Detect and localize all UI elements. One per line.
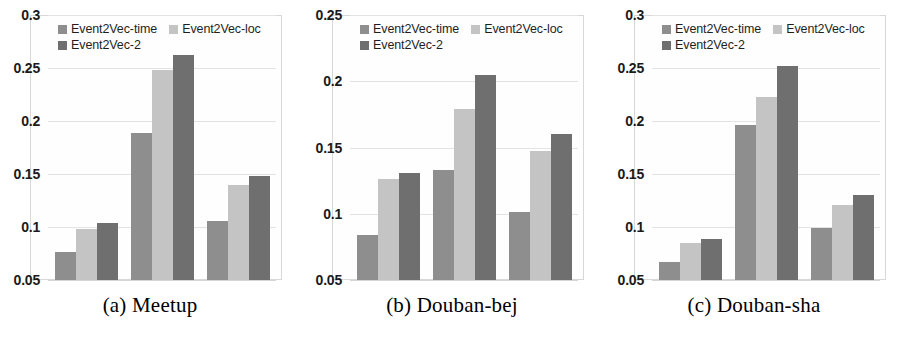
y-tick-label: 0.05: [316, 272, 342, 288]
y-tick-label: 0.3: [625, 7, 644, 23]
plot-area-a: [48, 15, 276, 280]
bars-layer: [652, 15, 880, 280]
bar-group: [735, 15, 798, 280]
bar[interactable]: [701, 239, 722, 280]
legend-swatch-icon: [58, 41, 67, 50]
bar[interactable]: [832, 205, 853, 280]
legend-swatch-icon: [773, 25, 782, 34]
y-tick-label: 0.2: [21, 113, 40, 129]
legend-label: Event2Vec-loc: [484, 22, 563, 36]
y-axis-a: 0.30.250.20.150.10.05: [0, 15, 44, 280]
legend-item[interactable]: Event2Vec-loc: [773, 22, 865, 36]
legend-label: Event2Vec-2: [675, 38, 745, 52]
y-tick-label: 0.25: [14, 60, 40, 76]
legend-label: Event2Vec-time: [71, 22, 157, 36]
legend-a: Event2Vec-timeEvent2Vec-locEvent2Vec-2: [58, 22, 290, 52]
bar[interactable]: [756, 97, 777, 280]
panel-caption-c: (c) Douban-sha: [604, 293, 904, 318]
y-tick-label: 0.1: [21, 219, 40, 235]
y-tick-label: 0.1: [323, 206, 342, 222]
bar[interactable]: [811, 228, 832, 280]
legend-item[interactable]: Event2Vec-2: [662, 38, 745, 52]
legend-swatch-icon: [360, 25, 369, 34]
y-tick-label: 0.1: [625, 219, 644, 235]
bar-group: [55, 15, 118, 280]
bar[interactable]: [207, 221, 228, 280]
legend-item[interactable]: Event2Vec-time: [58, 22, 157, 36]
y-axis-b: 0.250.20.150.10.05: [302, 15, 346, 280]
bar[interactable]: [853, 195, 874, 280]
bar[interactable]: [378, 179, 399, 280]
bar[interactable]: [76, 229, 97, 280]
bar[interactable]: [454, 109, 475, 280]
panel-caption-a: (a) Meetup: [0, 293, 300, 318]
legend-item[interactable]: Event2Vec-loc: [471, 22, 563, 36]
bar[interactable]: [55, 252, 76, 280]
bar[interactable]: [173, 55, 194, 280]
legend-swatch-icon: [169, 25, 178, 34]
bar[interactable]: [735, 125, 756, 280]
legend-swatch-icon: [662, 41, 671, 50]
y-tick-label: 0.15: [618, 166, 644, 182]
legend-item[interactable]: Event2Vec-loc: [169, 22, 261, 36]
bar-group: [659, 15, 722, 280]
bar-group: [131, 15, 194, 280]
legend-item[interactable]: Event2Vec-2: [360, 38, 443, 52]
legend-label: Event2Vec-2: [373, 38, 443, 52]
bar-group: [811, 15, 874, 280]
gridline: [48, 280, 276, 281]
bar[interactable]: [551, 134, 572, 280]
bar-group: [509, 15, 572, 280]
legend-label: Event2Vec-time: [373, 22, 459, 36]
legend-label: Event2Vec-2: [71, 38, 141, 52]
y-tick-label: 0.15: [14, 166, 40, 182]
y-axis-c: 0.30.250.20.150.10.05: [604, 15, 648, 280]
chart-panel-b: 0.250.20.150.10.05 Event2Vec-timeEvent2V…: [302, 0, 602, 353]
bar[interactable]: [530, 151, 551, 280]
y-tick-label: 0.2: [323, 73, 342, 89]
bar-group: [207, 15, 270, 280]
chart-panel-c: 0.30.250.20.150.10.05 Event2Vec-timeEven…: [604, 0, 904, 353]
bar[interactable]: [777, 66, 798, 280]
legend-swatch-icon: [471, 25, 480, 34]
y-tick-label: 0.25: [316, 7, 342, 23]
bar-group: [357, 15, 420, 280]
legend-item[interactable]: Event2Vec-2: [58, 38, 141, 52]
legend-swatch-icon: [58, 25, 67, 34]
legend-swatch-icon: [360, 41, 369, 50]
bars-layer: [48, 15, 276, 280]
y-tick-label: 0.25: [618, 60, 644, 76]
y-tick-label: 0.05: [14, 272, 40, 288]
legend-label: Event2Vec-loc: [182, 22, 261, 36]
legend-swatch-icon: [662, 25, 671, 34]
bar[interactable]: [228, 185, 249, 280]
bar[interactable]: [152, 70, 173, 280]
bar[interactable]: [433, 170, 454, 280]
bar[interactable]: [399, 173, 420, 280]
plot-wrapper-b: 0.250.20.150.10.05 Event2Vec-timeEvent2V…: [302, 0, 602, 285]
bar[interactable]: [97, 223, 118, 280]
legend-c: Event2Vec-timeEvent2Vec-locEvent2Vec-2: [662, 22, 894, 52]
bar[interactable]: [357, 235, 378, 280]
bar[interactable]: [680, 243, 701, 280]
plot-area-c: [652, 15, 880, 280]
chart-panel-a: 0.30.250.20.150.10.05 Event2Vec-timeEven…: [0, 0, 300, 353]
bar-group: [433, 15, 496, 280]
legend-item[interactable]: Event2Vec-time: [662, 22, 761, 36]
legend-label: Event2Vec-loc: [786, 22, 865, 36]
legend-item[interactable]: Event2Vec-time: [360, 22, 459, 36]
bars-layer: [350, 15, 578, 280]
bar[interactable]: [249, 176, 270, 280]
y-tick-label: 0.2: [625, 113, 644, 129]
plot-wrapper-a: 0.30.250.20.150.10.05 Event2Vec-timeEven…: [0, 0, 300, 285]
bar[interactable]: [509, 212, 530, 280]
bar[interactable]: [659, 262, 680, 280]
y-tick-label: 0.15: [316, 140, 342, 156]
bar[interactable]: [475, 75, 496, 280]
y-tick-label: 0.3: [21, 7, 40, 23]
plot-wrapper-c: 0.30.250.20.150.10.05 Event2Vec-timeEven…: [604, 0, 904, 285]
y-tick-label: 0.05: [618, 272, 644, 288]
gridline: [350, 280, 578, 281]
plot-area-b: [350, 15, 578, 280]
bar[interactable]: [131, 133, 152, 280]
